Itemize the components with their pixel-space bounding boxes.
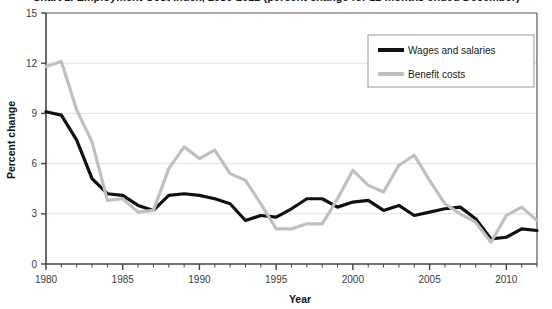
x-tick-label-1995: 1995: [265, 274, 288, 285]
x-tick-label-2005: 2005: [418, 274, 441, 285]
x-tick-label-1990: 1990: [188, 274, 211, 285]
chart-legend: Wages and salaries Benefit costs: [368, 35, 534, 87]
y-tick-label-3: 3: [31, 208, 37, 219]
y-axis-ticks: 03691215: [26, 8, 46, 270]
x-tick-label-1980: 1980: [35, 274, 58, 285]
y-axis-title: Percent change: [5, 101, 17, 179]
y-tick-label-15: 15: [26, 8, 38, 19]
data-series-group: [46, 62, 537, 243]
x-axis-ticks: 1980198519901995200020052010: [35, 264, 537, 285]
series-line-wages-and-salaries: [46, 112, 537, 239]
y-tick-label-0: 0: [31, 259, 37, 270]
x-tick-label-2000: 2000: [342, 274, 365, 285]
series-line-benefit-costs: [46, 62, 537, 243]
x-axis-title: Year: [289, 293, 311, 305]
legend-label-benefit-costs: Benefit costs: [408, 69, 465, 80]
x-tick-label-1985: 1985: [112, 274, 135, 285]
y-tick-label-9: 9: [31, 108, 37, 119]
x-tick-label-2010: 2010: [495, 274, 518, 285]
legend-label-wages-and-salaries: Wages and salaries: [408, 45, 495, 56]
y-tick-label-12: 12: [26, 58, 38, 69]
y-tick-label-6: 6: [31, 158, 37, 169]
chart-figure: Chart 1. Employment Cost Index, 1980-201…: [0, 0, 552, 309]
chart-plot: 03691215 1980198519901995200020052010 Pe…: [0, 0, 552, 309]
